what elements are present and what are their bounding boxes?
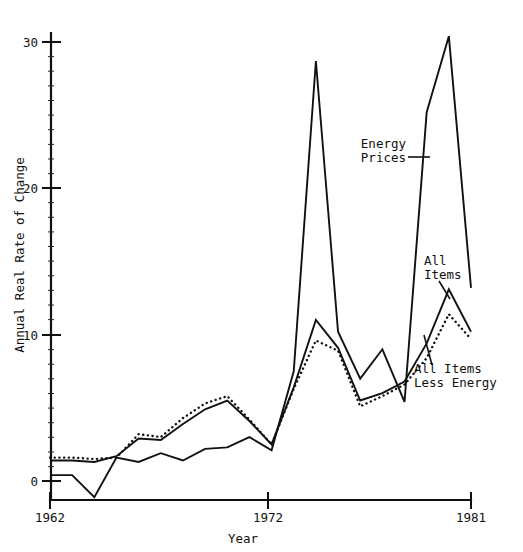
annotation-less-energy-line2: Less Energy [414, 375, 497, 390]
series-line-energy-prices [50, 36, 471, 497]
annotation-all-items-less-energy: All Items Less Energy [414, 361, 497, 390]
annotation-energy-prices-line2: Prices [361, 150, 406, 165]
x-tick-label-1981: 1981 [456, 510, 486, 525]
y-axis-title: Annual Real Rate of Change [12, 157, 27, 353]
x-tick-label-1972: 1972 [253, 510, 283, 525]
y-tick-label-0: 0 [30, 474, 38, 489]
annotation-all-items-line2: Items [424, 267, 462, 282]
chart-figure: 30 20 10 0 1962 1972 1981 Annual Real Ra… [0, 0, 523, 552]
series-line-all-items [50, 289, 471, 462]
annotation-all-items: All Items [424, 253, 462, 282]
annotation-energy-prices: Energy Prices [361, 136, 407, 165]
series-line-all-items-less-energy [50, 314, 471, 459]
x-axis [50, 492, 471, 509]
x-axis-title: Year [228, 531, 259, 546]
annotation-all-items-line1: All [424, 253, 447, 268]
line-chart-canvas: 30 20 10 0 1962 1972 1981 Annual Real Ra… [0, 0, 523, 552]
annotation-energy-prices-line1: Energy [361, 136, 407, 151]
y-tick-label-30: 30 [23, 35, 38, 50]
y-axis [42, 33, 61, 500]
annotation-less-energy-line1: All Items [414, 361, 482, 376]
x-tick-label-1962: 1962 [35, 510, 65, 525]
